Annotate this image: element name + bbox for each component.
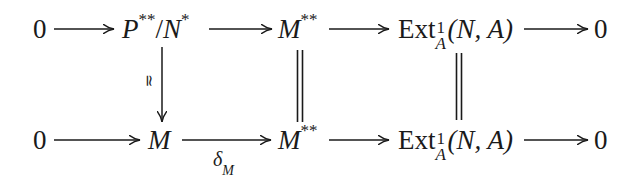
ext-arguments: (N, A): [448, 125, 514, 155]
delta-subscript: M: [222, 163, 234, 178]
ext-ring: A: [436, 146, 446, 163]
bottom-node-zero-right: 0: [594, 127, 608, 154]
ext-arguments: (N, A): [448, 14, 514, 44]
top-node-ext: Ext1A(N, A): [398, 16, 513, 43]
zero-label: 0: [594, 125, 608, 155]
top-node-p-quotient: P**/N*: [122, 16, 190, 43]
delta-symbol: δ: [213, 148, 222, 170]
iso-label: ≃: [140, 74, 159, 87]
bottom-node-m-double-dual: M**: [278, 127, 318, 154]
bottom-node-zero-left: 0: [33, 127, 47, 154]
p-double-dual-sup: **: [139, 10, 156, 29]
top-node-zero-left: 0: [33, 16, 47, 43]
zero-label: 0: [33, 14, 47, 44]
top-node-m-double-dual: M**: [278, 16, 318, 43]
ext-operator: Ext: [398, 14, 436, 44]
diagram-arrows: [0, 0, 636, 184]
bottom-node-m: M: [148, 127, 171, 154]
zero-label: 0: [33, 125, 47, 155]
m-symbol: M: [148, 125, 171, 155]
bottom-node-ext: Ext1A(N, A): [398, 127, 513, 154]
ext-operator: Ext: [398, 125, 436, 155]
delta-m-label: δM: [213, 148, 234, 171]
ext-ring: A: [436, 35, 446, 52]
m-double-dual-sup: **: [301, 10, 318, 29]
quotient-slash: /: [156, 14, 164, 44]
m-double-dual-sup: **: [301, 121, 318, 140]
top-node-zero-right: 0: [594, 16, 608, 43]
zero-label: 0: [594, 14, 608, 44]
n-symbol: N: [163, 14, 181, 44]
p-symbol: P: [122, 14, 139, 44]
m-symbol: M: [278, 14, 301, 44]
m-symbol: M: [278, 125, 301, 155]
n-dual-sup: *: [181, 10, 190, 29]
